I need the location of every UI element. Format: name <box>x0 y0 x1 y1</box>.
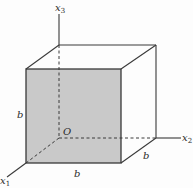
bottom-right-depth-edge <box>121 138 156 163</box>
x3-axis-label: x3 <box>55 2 65 15</box>
x2-axis-label: x2 <box>182 132 192 145</box>
edge-label-left: b <box>17 109 23 120</box>
top-right-depth-edge <box>121 45 156 69</box>
cube-diagram: x3 x2 x1 O b b b <box>0 0 193 188</box>
origin-label: O <box>63 126 71 137</box>
cube-diagram-svg: x3 x2 x1 O b b b <box>0 0 193 188</box>
top-left-depth-edge <box>26 45 59 69</box>
x1-axis-label: x1 <box>0 175 10 188</box>
x1-axis-solid <box>7 163 26 177</box>
front-face <box>26 69 121 163</box>
edge-label-depth: b <box>143 150 149 161</box>
edge-label-bottom: b <box>74 168 80 179</box>
